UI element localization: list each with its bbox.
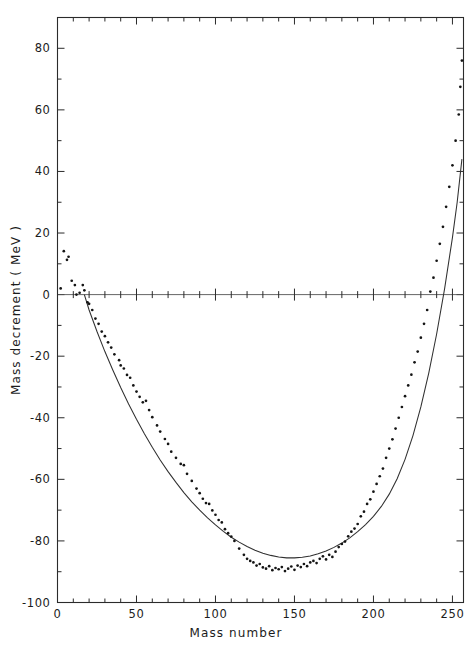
data-point	[423, 323, 426, 326]
data-point	[88, 302, 91, 305]
data-point	[195, 487, 198, 490]
data-point	[372, 490, 375, 493]
data-point	[382, 467, 385, 470]
data-point	[299, 566, 302, 569]
data-point	[407, 384, 410, 387]
data-point	[170, 450, 173, 453]
data-point	[83, 289, 86, 292]
data-point	[265, 567, 268, 570]
data-point	[388, 447, 391, 450]
data-point	[268, 565, 271, 568]
data-point	[175, 456, 178, 459]
data-point	[156, 424, 159, 427]
data-point	[293, 569, 296, 572]
data-point	[459, 85, 462, 88]
data-point	[230, 535, 233, 538]
data-point	[224, 528, 227, 531]
x-tick-label: 100	[204, 607, 228, 621]
data-point	[138, 395, 141, 398]
x-tick-label: 50	[129, 607, 145, 621]
y-tick-label: -40	[30, 411, 51, 425]
data-point	[113, 353, 116, 356]
data-point	[100, 330, 103, 333]
data-point	[151, 416, 154, 419]
y-tick-label: 40	[35, 164, 51, 178]
data-point	[366, 503, 369, 506]
data-point	[416, 350, 419, 353]
data-point	[274, 567, 277, 570]
data-points-series	[59, 59, 463, 572]
data-point	[123, 367, 126, 370]
x-tick-label: 200	[362, 607, 386, 621]
data-point	[186, 472, 189, 475]
data-point	[397, 416, 400, 419]
data-point	[141, 401, 144, 404]
data-point	[183, 464, 186, 467]
data-point	[461, 59, 464, 62]
data-point	[344, 540, 347, 543]
data-point	[258, 563, 261, 566]
data-point	[277, 568, 280, 571]
data-point	[255, 564, 258, 567]
data-point	[249, 560, 252, 563]
data-point	[62, 250, 65, 253]
y-axis-title: Mass decrement ( MeV )	[9, 225, 23, 395]
data-point	[312, 560, 315, 563]
data-point	[331, 556, 334, 559]
data-point	[375, 483, 378, 486]
data-point	[432, 276, 435, 279]
data-point	[198, 492, 201, 495]
fit-curve-series	[84, 159, 462, 558]
data-point	[214, 513, 217, 516]
y-tick-label: -60	[30, 472, 51, 486]
data-point	[426, 309, 429, 312]
data-point	[429, 290, 432, 293]
data-point	[211, 509, 214, 512]
data-point	[67, 255, 70, 258]
data-point	[135, 390, 138, 393]
data-point	[110, 346, 113, 349]
data-point	[271, 569, 274, 572]
data-point	[118, 359, 121, 362]
data-point	[159, 430, 162, 433]
data-point	[217, 519, 220, 522]
data-point	[179, 463, 182, 466]
data-point	[454, 139, 457, 142]
data-point	[126, 374, 129, 377]
data-point	[420, 336, 423, 339]
data-point	[75, 293, 78, 296]
y-tick-label: 20	[35, 226, 51, 240]
x-axis-title: Mass number	[190, 626, 283, 640]
data-point	[353, 527, 356, 530]
data-point	[78, 291, 81, 294]
data-point	[359, 515, 362, 518]
data-point	[164, 438, 167, 441]
data-point	[81, 284, 84, 287]
data-point	[391, 438, 394, 441]
data-point	[94, 317, 97, 320]
data-point	[107, 341, 110, 344]
data-point	[97, 323, 100, 326]
data-point	[167, 443, 170, 446]
data-point	[457, 113, 460, 116]
data-point	[145, 399, 148, 402]
data-point	[104, 335, 107, 338]
data-point	[243, 553, 246, 556]
data-point	[119, 364, 122, 367]
data-point	[233, 540, 236, 543]
data-point	[59, 287, 62, 290]
chart-canvas: 050100150200250 806040200-20-40-60-80-10…	[0, 0, 471, 650]
data-point	[410, 373, 413, 376]
data-point	[451, 164, 454, 167]
data-point	[284, 570, 287, 573]
data-point	[227, 532, 230, 535]
data-point	[337, 546, 340, 549]
data-point	[246, 557, 249, 560]
data-point	[280, 566, 283, 569]
x-tick-label: 0	[54, 607, 62, 621]
x-axis-ticks	[58, 18, 453, 603]
data-point	[347, 535, 350, 538]
data-point	[74, 284, 77, 287]
data-point	[201, 497, 204, 500]
data-point	[309, 561, 312, 564]
